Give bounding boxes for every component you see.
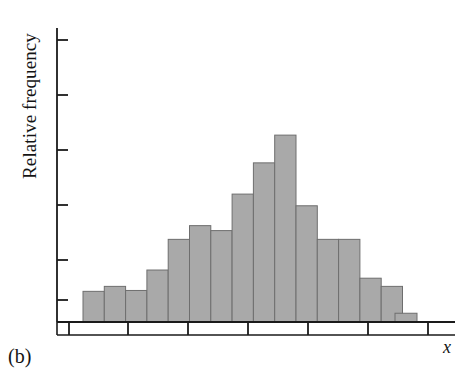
histogram-bar bbox=[232, 194, 253, 322]
histogram-bar bbox=[104, 286, 125, 322]
histogram-bar bbox=[211, 231, 232, 322]
histogram-bar bbox=[317, 239, 338, 322]
y-axis-label: Relative frequency bbox=[19, 6, 41, 206]
histogram-bar bbox=[147, 270, 168, 322]
panel-label: (b) bbox=[8, 345, 31, 368]
histogram-bar bbox=[190, 226, 211, 322]
histogram-bar bbox=[395, 313, 417, 322]
histogram-bar bbox=[83, 291, 104, 322]
histogram-plot bbox=[0, 0, 466, 383]
histogram-bar bbox=[339, 239, 360, 322]
x-axis-label: x bbox=[443, 337, 451, 358]
histogram-bar bbox=[360, 278, 381, 322]
histogram-bar bbox=[253, 163, 274, 322]
histogram-bar bbox=[168, 239, 189, 322]
histogram-bar bbox=[275, 135, 296, 322]
histogram-figure: Relative frequency (b) x bbox=[0, 0, 466, 383]
histogram-bar bbox=[126, 290, 147, 322]
histogram-bar bbox=[296, 206, 317, 322]
